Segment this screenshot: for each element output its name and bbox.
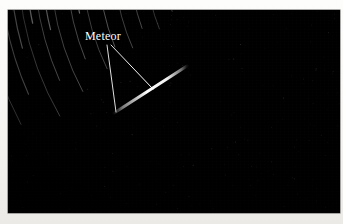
film-speck (234, 112, 235, 113)
film-speck (101, 99, 102, 100)
film-speck (260, 62, 261, 63)
film-speck (287, 185, 288, 186)
film-speck (199, 204, 200, 205)
film-speck (310, 41, 311, 42)
film-speck (271, 127, 272, 128)
film-speck (242, 68, 243, 69)
film-speck (250, 185, 251, 186)
film-speck (282, 118, 283, 119)
film-speck (242, 45, 243, 46)
film-speck (130, 81, 131, 82)
film-speck (333, 205, 334, 206)
film-speck (213, 208, 214, 209)
film-speck (260, 154, 261, 155)
film-speck (233, 59, 234, 60)
film-speck (27, 182, 28, 183)
film-speck (292, 178, 293, 179)
film-speck (200, 155, 201, 156)
film-speck (110, 197, 111, 198)
film-speck (295, 166, 296, 167)
film-speck (306, 199, 307, 200)
film-speck (83, 141, 84, 142)
film-speck (328, 32, 329, 33)
film-speck (13, 174, 14, 175)
film-speck (93, 113, 94, 114)
film-speck (71, 12, 72, 13)
film-speck (134, 128, 135, 129)
film-speck (183, 166, 184, 167)
film-speck (142, 37, 143, 38)
film-speck (327, 142, 328, 143)
film-speck (50, 70, 51, 71)
film-speck (324, 70, 325, 71)
film-speck (169, 85, 170, 86)
star-trail-photograph-page: Meteor (0, 0, 343, 224)
film-speck (173, 185, 174, 186)
film-speck (286, 28, 287, 29)
film-speck (112, 171, 113, 172)
film-speck (296, 139, 297, 140)
film-speck (334, 18, 335, 19)
film-speck (177, 166, 178, 167)
film-speck (155, 118, 156, 119)
film-speck (41, 81, 42, 82)
film-speck (240, 44, 241, 45)
film-speck (26, 144, 27, 145)
film-speck (225, 175, 226, 176)
film-speck (55, 132, 56, 133)
film-speck (141, 24, 142, 25)
film-speck (263, 179, 264, 180)
film-speck (22, 207, 23, 208)
film-speck (227, 147, 228, 148)
film-speck (42, 114, 43, 115)
film-speck (309, 140, 310, 141)
film-speck (27, 141, 28, 142)
film-speck (120, 82, 121, 83)
film-speck (177, 175, 178, 176)
film-speck (171, 46, 172, 47)
film-speck (200, 43, 201, 44)
film-speck (52, 47, 53, 48)
film-speck (263, 100, 264, 101)
film-speck (170, 24, 171, 25)
film-speck (36, 138, 37, 139)
film-speck (321, 135, 322, 136)
film-speck (249, 28, 250, 29)
photo-frame (8, 10, 340, 213)
film-speck (215, 15, 216, 16)
film-speck (318, 195, 319, 196)
film-speck (169, 65, 170, 66)
film-speck (284, 206, 285, 207)
film-speck (256, 167, 257, 168)
film-speck (327, 93, 328, 94)
film-speck (316, 68, 317, 69)
film-speck (12, 161, 13, 162)
film-speck (98, 154, 99, 155)
film-speck (298, 151, 299, 152)
film-speck (339, 103, 340, 104)
film-speck (104, 167, 105, 168)
film-speck (137, 86, 138, 87)
film-speck (62, 13, 63, 14)
film-speck (158, 163, 159, 164)
film-speck (220, 101, 221, 102)
film-speck (49, 17, 50, 18)
film-speck (333, 71, 334, 72)
film-speck (47, 152, 48, 153)
film-speck (11, 156, 12, 157)
film-speck (143, 11, 144, 12)
film-speck (169, 102, 170, 103)
film-speck (25, 81, 26, 82)
film-speck (233, 142, 234, 143)
film-speck (87, 89, 88, 90)
film-speck (325, 155, 326, 156)
film-speck (9, 58, 10, 59)
film-speck (294, 147, 295, 148)
film-speck (165, 192, 166, 193)
film-speck (33, 133, 34, 134)
film-speck (291, 75, 292, 76)
film-speck (316, 200, 317, 201)
film-speck (325, 207, 326, 208)
film-speck (38, 44, 39, 45)
film-speck (101, 95, 102, 96)
